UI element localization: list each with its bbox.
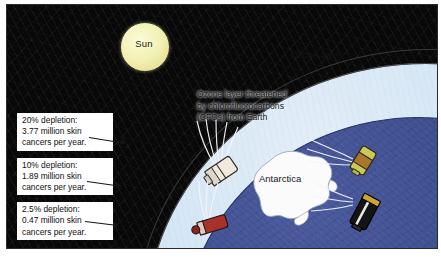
cfc-caption-line-1: Ozone layer threatened bbox=[197, 89, 287, 101]
callout-20-percent: 20% depletion: 3.77 million skin cancers… bbox=[17, 113, 113, 151]
illustration-scene: Antarctica bbox=[6, 4, 438, 249]
callout-20-line-1: 20% depletion: bbox=[22, 115, 109, 126]
depletion-callout-panel: 20% depletion: 3.77 million skin cancers… bbox=[17, 113, 113, 247]
cfc-caption-line-3: (CFCs) from Earth bbox=[197, 112, 287, 124]
sun-label: Sun bbox=[120, 38, 168, 49]
callout-2-5-percent: 2.5% depletion: 0.47 million skin cancer… bbox=[17, 202, 113, 240]
cfc-caption-line-2: by chlorofluorocarbons bbox=[197, 101, 287, 113]
cfc-caption: Ozone layer threatened by chlorofluoroca… bbox=[197, 89, 287, 124]
callout-10-line-2: 1.89 million skin bbox=[22, 171, 109, 182]
antarctica-label: Antarctica bbox=[259, 173, 301, 184]
ozone-layer-label: Ozone layer bbox=[290, 49, 341, 60]
callout-20-line-2: 3.77 million skin bbox=[22, 126, 109, 137]
callout-2-5-line-1: 2.5% depletion: bbox=[22, 204, 109, 215]
callout-10-line-1: 10% depletion: bbox=[22, 160, 109, 171]
red-aerosol-can bbox=[189, 209, 231, 241]
callout-2-5-line-3: cancers per year. bbox=[22, 227, 109, 238]
callout-2-5-line-2: 0.47 million skin bbox=[22, 215, 109, 226]
ozone-depletion-figure: Antarctica bbox=[0, 0, 441, 258]
black-aerosol-can bbox=[345, 189, 387, 235]
callout-10-line-3: cancers per year. bbox=[22, 182, 109, 193]
callout-10-percent: 10% depletion: 1.89 million skin cancers… bbox=[17, 158, 113, 196]
